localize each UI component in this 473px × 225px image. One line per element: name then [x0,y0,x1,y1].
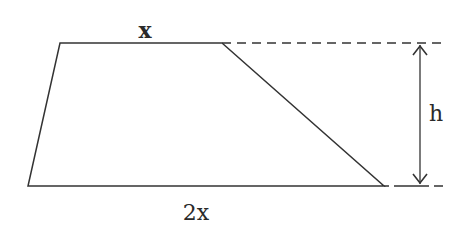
height-arrow [413,45,427,184]
label-height-h: h [429,101,443,126]
trapezoid-diagram: x h 2x [0,0,473,225]
label-bottom-2x: 2x [183,200,210,225]
trapezoid-shape [28,43,384,186]
label-top-x: x [138,17,152,43]
